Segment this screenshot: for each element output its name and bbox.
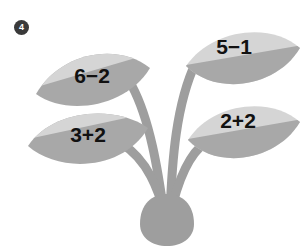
leaf-upper-right-expression: 5−1 bbox=[194, 36, 274, 57]
worksheet-page: 4 bbox=[0, 0, 308, 251]
plant-bulb-base bbox=[140, 194, 194, 246]
leaf-lower-left-expression: 3+2 bbox=[48, 124, 128, 145]
leaf-lower-right-expression: 2+2 bbox=[198, 110, 278, 131]
leaf-upper-left-expression: 6−2 bbox=[52, 65, 132, 86]
